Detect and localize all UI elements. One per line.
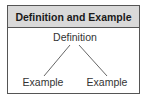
- link-right: [79, 45, 107, 76]
- child-node-example-right: Example: [87, 76, 128, 88]
- root-node-definition: Definition: [53, 31, 97, 43]
- link-left: [44, 45, 70, 76]
- child-node-example-left: Example: [23, 76, 64, 88]
